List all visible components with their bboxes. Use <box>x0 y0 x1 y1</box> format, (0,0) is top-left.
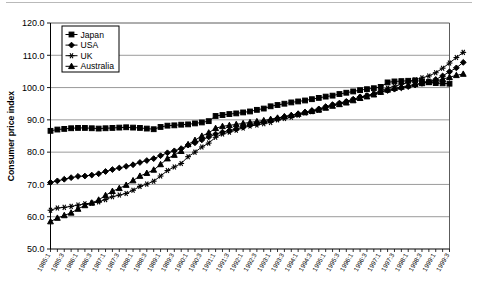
data-point <box>316 96 321 101</box>
data-point <box>330 93 335 98</box>
data-point <box>96 171 102 177</box>
data-point <box>103 169 109 175</box>
legend-label-usa: USA <box>81 40 99 50</box>
data-point <box>76 126 81 131</box>
data-point <box>227 112 232 117</box>
data-point <box>69 126 74 131</box>
y-axis-tick-label: 50.0 <box>27 244 45 254</box>
data-point <box>199 120 204 125</box>
y-axis-ticks: 50.060.070.080.090.0100.0110.0120.0 <box>22 18 51 254</box>
y-axis-tick-label: 90.0 <box>27 115 45 125</box>
data-point <box>323 94 328 99</box>
data-point <box>171 152 177 157</box>
data-point <box>89 172 95 178</box>
data-point <box>158 125 163 130</box>
data-point <box>130 188 136 193</box>
data-point <box>75 206 81 211</box>
legend-marker-filled-square <box>69 32 74 37</box>
x-axis-tick-labels: 1985:11985:31986:11986:31987:11987:31988… <box>36 252 451 273</box>
data-point <box>206 119 211 124</box>
data-point <box>234 111 239 116</box>
data-point <box>82 126 87 131</box>
data-point <box>248 109 253 114</box>
data-point <box>103 192 109 197</box>
data-point <box>82 173 88 179</box>
data-point <box>130 177 136 182</box>
data-point <box>62 126 67 131</box>
data-point <box>48 218 54 223</box>
data-point <box>96 126 101 131</box>
y-axis-tick-label: 120.0 <box>22 18 45 28</box>
data-point <box>261 106 266 111</box>
data-point <box>165 123 170 128</box>
data-point <box>151 127 156 132</box>
data-point <box>158 153 164 159</box>
data-point <box>75 173 81 179</box>
data-point <box>186 122 191 127</box>
data-point <box>123 191 129 196</box>
series-uk <box>48 50 467 213</box>
data-point <box>61 205 67 210</box>
data-point <box>199 133 205 138</box>
data-point <box>447 81 452 86</box>
data-point <box>365 87 370 92</box>
data-point <box>124 125 129 130</box>
data-point <box>371 86 376 91</box>
series-line-uk <box>51 52 464 210</box>
data-point <box>151 156 157 162</box>
data-point <box>144 170 150 175</box>
data-point <box>206 130 212 135</box>
data-point <box>96 197 102 202</box>
data-point <box>130 162 136 168</box>
consumer-price-index-line-chart: 50.060.070.080.090.0100.0110.0120.01985:… <box>0 0 478 298</box>
data-point <box>61 176 67 182</box>
data-point <box>241 110 246 115</box>
data-point <box>151 167 157 172</box>
data-point <box>254 107 259 112</box>
y-axis-tick-label: 70.0 <box>27 180 45 190</box>
y-axis-tick-label: 80.0 <box>27 147 45 157</box>
data-point <box>68 204 74 209</box>
data-point <box>110 126 115 131</box>
x-axis-tick-label: 1999:3 <box>435 252 451 273</box>
series-markers-australia <box>48 71 467 224</box>
data-point <box>110 194 116 199</box>
y-axis-tick-label: 110.0 <box>23 51 45 61</box>
data-point <box>116 165 122 171</box>
y-axis-tick-label: 60.0 <box>27 212 45 222</box>
page-scan-artifact-line <box>6 2 472 3</box>
data-point <box>110 167 116 173</box>
legend-label-japan: Japan <box>81 30 105 40</box>
data-point <box>54 205 60 210</box>
data-point <box>426 73 432 78</box>
chart-figure: 50.060.070.080.090.0100.0110.0120.01985:… <box>0 0 478 298</box>
legend-label-uk: UK <box>81 51 93 61</box>
data-point <box>117 125 122 130</box>
data-point <box>48 128 53 133</box>
data-point <box>55 127 60 132</box>
data-point <box>358 88 363 93</box>
data-point <box>116 193 122 198</box>
data-point <box>123 163 129 169</box>
data-point <box>68 175 74 181</box>
data-point <box>351 89 356 94</box>
data-point <box>171 164 177 169</box>
data-point <box>137 160 143 166</box>
data-point <box>144 126 149 131</box>
data-point <box>144 182 150 187</box>
data-point <box>296 99 301 104</box>
data-point <box>179 122 184 127</box>
data-point <box>344 90 349 95</box>
series-line-australia <box>51 74 464 222</box>
legend-label-australia: Australia <box>81 61 115 71</box>
data-point <box>460 71 466 76</box>
data-point <box>289 100 294 105</box>
y-axis-tick-label: 100.0 <box>22 83 45 93</box>
chart-legend: JapanUSAUKAustralia <box>62 26 119 72</box>
data-point <box>131 125 136 130</box>
data-point <box>213 114 218 119</box>
series-australia <box>48 71 467 224</box>
data-point <box>193 121 198 126</box>
data-point <box>192 137 198 142</box>
data-point <box>89 126 94 131</box>
